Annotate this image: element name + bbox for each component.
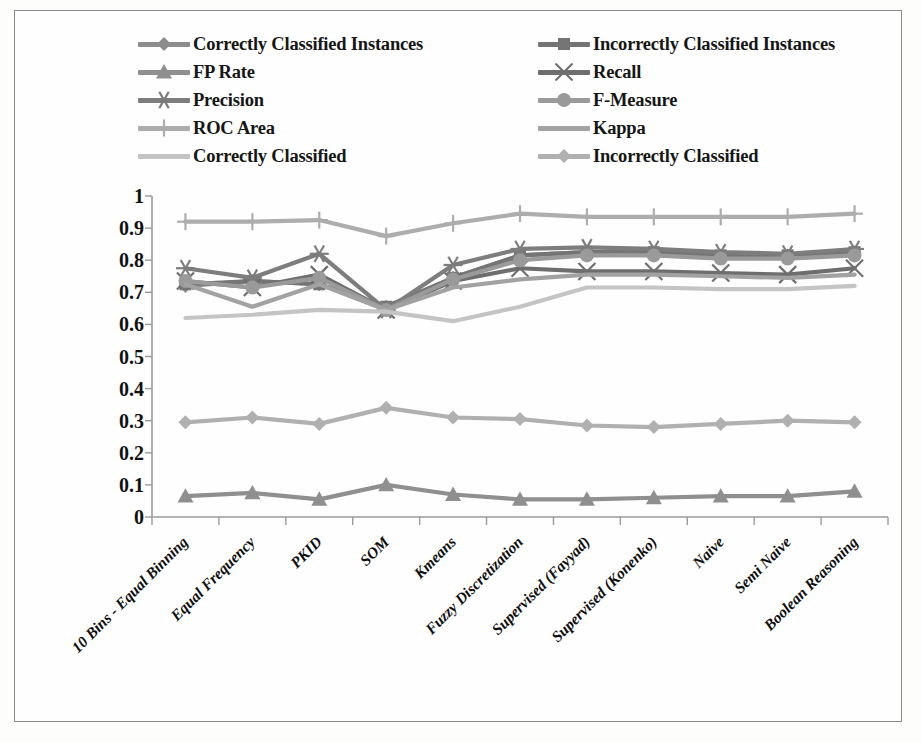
x-axis-tick-label: SOM bbox=[356, 533, 392, 569]
x-axis-tick-label: PKID bbox=[287, 533, 326, 572]
x-axis-tick-label: 10 Bins - Equal Binning bbox=[69, 533, 193, 657]
chart-figure: Correctly Classified InstancesIncorrectl… bbox=[0, 0, 922, 742]
x-axis-tick-label: Semi Naive bbox=[730, 533, 794, 597]
x-axis-tick-labels: 10 Bins - Equal BinningEqual FrequencyPK… bbox=[0, 0, 922, 742]
x-axis-tick-label: Naive bbox=[689, 533, 728, 572]
x-axis-tick-label: Kmeans bbox=[411, 533, 460, 582]
